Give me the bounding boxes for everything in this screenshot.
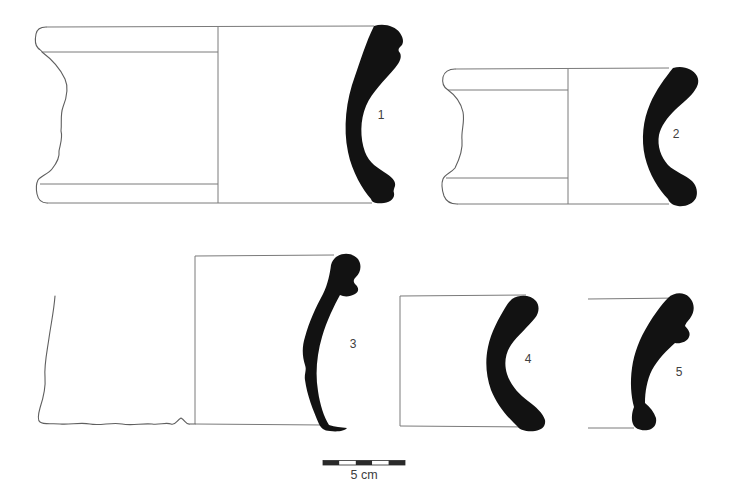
- vessel-1-rim-top-line: [46, 26, 374, 27]
- vessel-2-section-profile: [643, 67, 698, 206]
- vessel-3-top-line: [195, 255, 334, 256]
- vessel-2-drawing: 2: [442, 67, 698, 206]
- vessel-3-bottom-line: [195, 424, 324, 425]
- vessel-3-sherd-outline: [38, 296, 195, 425]
- scale-bar-segment-1: [323, 461, 339, 466]
- vessel-4-bottom-line: [400, 426, 532, 427]
- vessel-1-label: 1: [378, 108, 385, 122]
- vessel-4-label: 4: [525, 352, 532, 366]
- vessel-3-drawing: 3: [38, 254, 360, 432]
- vessel-4-top-line: [400, 295, 526, 296]
- pottery-figure-canvas: 1 2 3 4: [0, 0, 729, 486]
- vessel-1-section-profile: [346, 25, 403, 204]
- vessel-1-drawing: 1: [35, 25, 403, 204]
- vessel-3-label: 3: [350, 337, 357, 351]
- vessel-2-rim-top-line: [455, 68, 669, 69]
- vessel-5-label: 5: [676, 365, 683, 379]
- vessel-5-section-profile: [631, 293, 694, 430]
- scale-bar-label: 5 cm: [350, 468, 377, 482]
- vessel-4-drawing: 4: [400, 295, 545, 431]
- vessel-4-section-profile: [486, 296, 545, 431]
- scale-bar-segment-3: [356, 461, 372, 466]
- vessel-2-exterior-outline: [442, 69, 464, 204]
- scale-bar: 5 cm: [323, 461, 405, 483]
- vessel-5-top-line: [588, 298, 680, 299]
- vessel-5-drawing: 5: [588, 293, 694, 430]
- scale-bar-segment-5: [389, 461, 405, 466]
- vessel-2-label: 2: [673, 127, 680, 141]
- scale-bar-segment-4: [372, 461, 388, 466]
- scale-bar-segment-2: [339, 461, 355, 466]
- pottery-figure: 1 2 3 4: [0, 0, 729, 486]
- vessel-1-exterior-outline: [35, 27, 67, 203]
